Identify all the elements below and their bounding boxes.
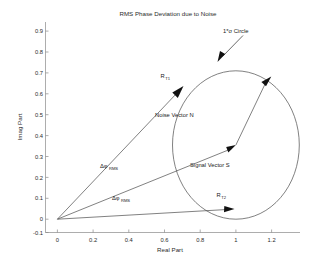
- signal-vector-arrowhead: [226, 145, 236, 153]
- y-axis-title: Imag Part: [16, 113, 23, 140]
- sigma-circle-annotation: 1*σ Circle: [218, 28, 249, 63]
- y-tick-label: 0.2: [35, 175, 43, 181]
- y-tick-label: -0.1: [33, 230, 43, 236]
- chart-canvas: RMS Phase Deviation due to Noise -0.1 0 …: [0, 0, 312, 261]
- rt1-label-group: R T1: [161, 73, 171, 81]
- x-tick-label: 1: [234, 237, 237, 243]
- x-tick-label: 0.8: [196, 237, 204, 243]
- y-tick-label: 0.8: [35, 49, 43, 55]
- noise-vector-line: [236, 81, 267, 145]
- signal-vector: [57, 145, 236, 219]
- rt2-vector-line: [57, 210, 227, 220]
- chart-title: RMS Phase Deviation due to Noise: [120, 10, 218, 17]
- y-tick-label: 0.1: [35, 195, 43, 201]
- y-tick-label: 0.7: [35, 70, 43, 76]
- y-tick-label: 0.6: [35, 91, 43, 97]
- x-axis-ticks: 0 0.2 0.4 0.6 0.8 1 1.2: [56, 230, 276, 243]
- axis-frame: [46, 22, 301, 233]
- y-tick-label: 0.3: [35, 154, 43, 160]
- sigma-circle-arrowhead: [218, 51, 226, 62]
- rt2-label-group: R T2: [217, 192, 227, 200]
- y-tick-label: 0.9: [35, 28, 43, 34]
- signal-vector-label: Signal Vector S: [190, 162, 230, 168]
- x-tick-label: 0: [56, 237, 59, 243]
- y-axis-ticks: -0.1 0 0.1 0.2 0.3 0.4 0.5 0.6 0.7: [33, 28, 49, 235]
- delta-phi-rms-lower-group: Δφ RMS: [112, 195, 130, 203]
- x-axis-title: Real Part: [157, 246, 183, 253]
- x-tick-label: 0.6: [160, 237, 168, 243]
- rt2-vector: [57, 206, 234, 219]
- x-tick-label: 0.2: [89, 237, 97, 243]
- rt2-label: R: [217, 192, 221, 198]
- y-tick-label: 0.4: [35, 133, 44, 139]
- y-tick-label: 0.5: [35, 112, 43, 118]
- rt1-sublabel: T1: [165, 76, 171, 81]
- noise-vector-label: Noise Vector N: [155, 112, 194, 118]
- delta-phi-rms-upper-label: Δφ: [100, 163, 108, 169]
- rt2-sublabel: T2: [221, 195, 227, 200]
- chart-figure: RMS Phase Deviation due to Noise -0.1 0 …: [0, 0, 312, 261]
- delta-phi-rms-lower-sublabel: RMS: [121, 198, 130, 203]
- rt1-label: R: [161, 73, 165, 79]
- delta-phi-rms-lower-label: Δφ: [112, 195, 120, 201]
- noise-vector: [236, 77, 271, 146]
- sigma-circle-label: 1*σ Circle: [223, 28, 248, 34]
- x-tick-label: 0.4: [125, 237, 134, 243]
- y-tick-label: 0: [40, 216, 43, 222]
- sigma-circle-leader: [223, 36, 244, 57]
- rt2-vector-arrowhead: [224, 206, 235, 212]
- x-tick-label: 1.2: [268, 237, 276, 243]
- signal-vector-line: [57, 149, 232, 220]
- delta-phi-rms-upper-sublabel: RMS: [109, 166, 118, 171]
